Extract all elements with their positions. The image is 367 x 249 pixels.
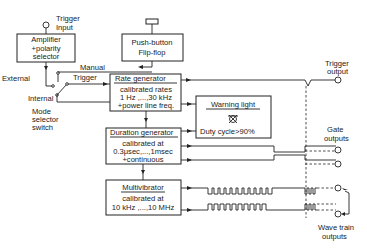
multivibrator-line-2: 10 kHz ,...,10 MHz (112, 203, 175, 212)
duration-line-3: +continuous (122, 155, 163, 164)
trigger-input-label-1: Trigger (56, 14, 80, 23)
manual-label: Manual (80, 63, 105, 72)
warning-light-block: Warning light Duty cycle>90% (196, 96, 271, 138)
rate-generator-block: Rate generator calibrated rates 1 Hz ,..… (110, 74, 181, 111)
pushbutton-icon[interactable] (146, 19, 158, 34)
block-diagram: Trigger Input Amplifier +polarity select… (0, 0, 367, 249)
external-label: External (2, 74, 30, 83)
rate-title: Rate generator (115, 74, 166, 83)
pushbutton-line-1: Push-button (132, 38, 173, 47)
multivibrator-line-1: calibrated at (122, 194, 164, 203)
pushbutton-line-2: Flip-flop (138, 48, 165, 57)
amplifier-line-1: Amplifier (31, 35, 61, 44)
gate-outputs-label-1: Gate (327, 125, 343, 134)
mode-selector-switch[interactable] (56, 83, 69, 97)
trigger-input-label-2: Input (56, 23, 74, 32)
duration-title: Duration generator (110, 128, 174, 137)
trigger-input-terminal (43, 22, 49, 34)
wave-train-label-1: Wave train (318, 223, 354, 232)
trigger-label: Trigger (73, 73, 97, 82)
mode-label-3: switch (32, 123, 53, 132)
amplifier-block: Amplifier +polarity selector (17, 34, 75, 62)
multivibrator-block: Multivibrator calibrated at 10 kHz ,...,… (106, 180, 181, 215)
multivibrator-title: Multivibrator (122, 183, 164, 192)
pushbutton-flipflop-block: Push-button Flip-flop (122, 34, 183, 61)
rate-line-3: +power line freq. (118, 101, 174, 110)
duration-generator-block: Duration generator calibrated at 0.3μsec… (106, 128, 181, 164)
amplifier-line-3: selector (33, 52, 60, 61)
gate-outputs-label-2: outputs (324, 134, 349, 143)
warning-line-1: Duty cycle>90% (200, 127, 255, 136)
trigger-output-label-2: output (327, 67, 349, 76)
internal-label: Internal (28, 94, 54, 103)
warning-title: Warning light (211, 100, 256, 109)
wave-train-label-2: outputs (322, 232, 347, 241)
